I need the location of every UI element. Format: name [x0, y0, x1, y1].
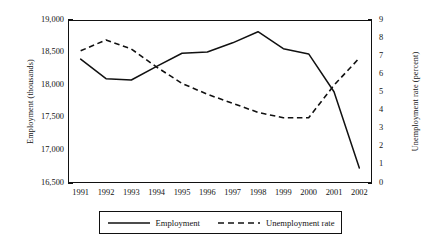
series-layer [68, 20, 372, 183]
legend-item-unemployment-rate: Unemployment rate [217, 218, 335, 228]
x-axis-tick-2002: 2002 [342, 188, 376, 197]
legend-label-unemployment-rate: Unemployment rate [266, 218, 335, 228]
y-axis-left-tick-17000: 17,000 [20, 145, 64, 154]
y-axis-right-tick-5: 5 [379, 87, 401, 96]
y-axis-right-tick-0: 0 [379, 178, 401, 187]
y-axis-right-tick-8: 8 [379, 33, 401, 42]
y-axis-right-tick-1: 1 [379, 159, 401, 168]
legend-swatch-solid-icon [107, 219, 151, 227]
y-axis-left-tick-19000: 19,000 [20, 15, 64, 24]
y-axis-left-tick-17500: 17,500 [20, 112, 64, 121]
y-axis-left-tick-16500: 16,500 [20, 178, 64, 187]
y-axis-right-tick-2: 2 [379, 141, 401, 150]
y-axis-right-tick-4: 4 [379, 105, 401, 114]
y-axis-left-title: Employment (thousands) [26, 22, 35, 182]
legend-swatch-dashed-icon [217, 219, 261, 227]
line-employment [81, 32, 360, 168]
y-axis-right-tick-3: 3 [379, 123, 401, 132]
legend-label-employment: Employment [156, 218, 200, 228]
y-axis-right-tick-6: 6 [379, 69, 401, 78]
y-axis-right-title: Unemployment rate (percent) [411, 17, 420, 187]
chart-legend: Employment Unemployment rate [99, 211, 342, 234]
chart-figure: Employment (thousands) Unemployment rate… [0, 0, 430, 245]
y-axis-left-tick-18500: 18,500 [20, 47, 64, 56]
legend-item-employment: Employment [107, 218, 200, 228]
y-axis-right-tick-7: 7 [379, 51, 401, 60]
y-axis-right-tick-9: 9 [379, 15, 401, 24]
y-axis-left-tick-18000: 18,000 [20, 80, 64, 89]
